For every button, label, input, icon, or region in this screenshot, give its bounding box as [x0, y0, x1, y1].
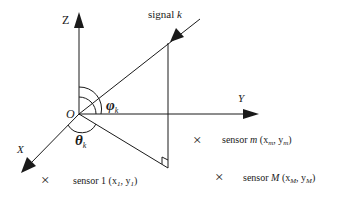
phi-label: φk	[106, 97, 119, 115]
sensor-M: × sensor M (xM, yM)	[215, 169, 315, 185]
coordinate-diagram: Z Y X signal k O φk θk × sensor 1 (x1, y…	[0, 0, 339, 199]
theta-label: θk	[75, 132, 87, 150]
z-axis-label: Z	[62, 13, 69, 27]
z-axis-arrow-icon	[74, 12, 84, 28]
sensor-m-label: sensor m (xm, ym)	[222, 134, 292, 147]
right-angle-marker	[162, 157, 168, 164]
y-axis-label: Y	[238, 92, 246, 104]
signal-label: signal k	[148, 8, 183, 20]
sensor-marker-icon: ×	[215, 169, 223, 185]
y-axis-arrow-icon	[243, 109, 259, 119]
sensor-marker-icon: ×	[41, 172, 49, 188]
signal-arrow-icon	[170, 28, 184, 42]
z-axis: Z	[62, 12, 84, 114]
elevation-angle-arc-outer	[79, 87, 102, 114]
x-axis: X	[16, 114, 79, 173]
sensor-marker-icon: ×	[193, 132, 201, 148]
sensor-M-label: sensor M (xM, yM)	[243, 172, 315, 185]
x-axis-label: X	[16, 143, 25, 155]
x-axis-arrow-icon	[21, 157, 36, 173]
projection-ground-line	[79, 114, 168, 168]
sensor-m: × sensor m (xm, ym)	[193, 132, 292, 148]
sensor-1: × sensor 1 (x1, y1)	[41, 172, 137, 188]
sensor-1-label: sensor 1 (x1, y1)	[73, 175, 137, 188]
origin-label: O	[66, 107, 75, 121]
signal-ray: signal k	[79, 8, 200, 114]
